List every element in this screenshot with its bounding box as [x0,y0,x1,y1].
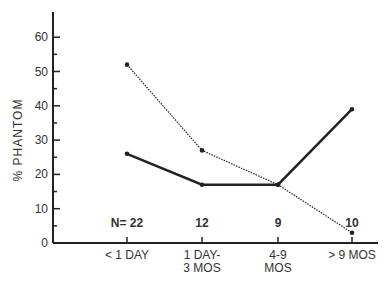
y-tick-label: 50 [35,65,49,79]
y-tick-label: 60 [35,30,49,44]
line-chart: 0102030405060% PHANTOMN= 22< 1 DAY121 DA… [0,0,391,283]
data-point [125,62,130,67]
x-tick-label: 1 DAY- [184,248,221,262]
data-point [200,148,205,153]
x-tick-label: < 1 DAY [105,248,149,262]
data-point [125,152,130,157]
y-tick-label: 0 [41,236,48,250]
data-point [200,182,205,187]
y-tick-label: 40 [35,99,49,113]
data-point [276,182,281,187]
x-tick-label: 4-9 [269,248,287,262]
n-label: N= 22 [111,216,144,230]
y-tick-label: 10 [35,202,49,216]
y-axis-label: % PHANTOM [11,99,25,182]
n-label: 12 [195,216,209,230]
x-tick-label: MOS [264,261,291,275]
n-label: 10 [345,216,359,230]
chart: 0102030405060% PHANTOMN= 22< 1 DAY121 DA… [0,0,391,283]
y-tick-label: 30 [35,133,49,147]
data-point [350,107,355,112]
x-tick-label: > 9 MOS [328,248,376,262]
n-label: 9 [275,216,282,230]
x-tick-label: 3 MOS [183,261,220,275]
series-dotted [127,65,352,233]
series-solid [127,109,352,184]
y-tick-label: 20 [35,167,49,181]
data-point [350,230,355,235]
